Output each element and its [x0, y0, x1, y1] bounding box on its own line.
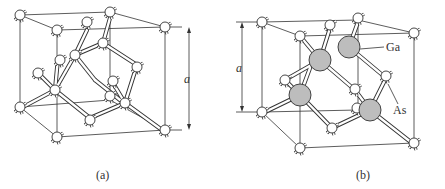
dimension-label-a-left: a: [184, 73, 190, 85]
caption-b: (b): [356, 169, 370, 181]
caption-a: (a): [96, 169, 109, 181]
dimension-label-a-right: a: [236, 62, 242, 74]
panel-a-bonds: [23, 18, 162, 130]
crystal-structures-figure: [0, 0, 445, 189]
panel-b-as-atoms: [257, 13, 420, 155]
atom-label-as: As: [393, 104, 406, 116]
atom-label-ga: Ga: [386, 41, 400, 53]
